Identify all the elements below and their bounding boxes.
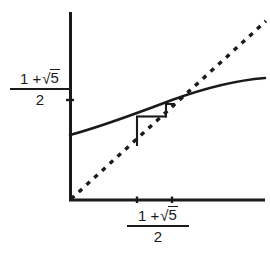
y-axis-tick-label: 1 +√5 2 xyxy=(10,70,70,107)
function-curve xyxy=(70,78,265,135)
y-label-numerator-prefix: 1 + xyxy=(20,70,41,87)
identity-diagonal-line xyxy=(71,21,266,199)
x-label-numerator: 1 +√5 xyxy=(127,207,189,225)
x-label-denominator: 2 xyxy=(127,227,189,244)
x-label-numerator-prefix: 1 + xyxy=(138,207,159,224)
x-label-radicand: 5 xyxy=(168,206,178,222)
y-label-radicand: 5 xyxy=(50,69,60,85)
cobweb-diagram-figure: 1 +√5 2 1 +√5 2 xyxy=(0,0,270,262)
x-axis-tick-label: 1 +√5 2 xyxy=(127,207,189,244)
x-label-radical: √5 xyxy=(159,207,178,223)
y-label-denominator: 2 xyxy=(10,90,70,107)
y-label-radical: √5 xyxy=(41,70,60,86)
y-label-numerator: 1 +√5 xyxy=(10,70,70,88)
